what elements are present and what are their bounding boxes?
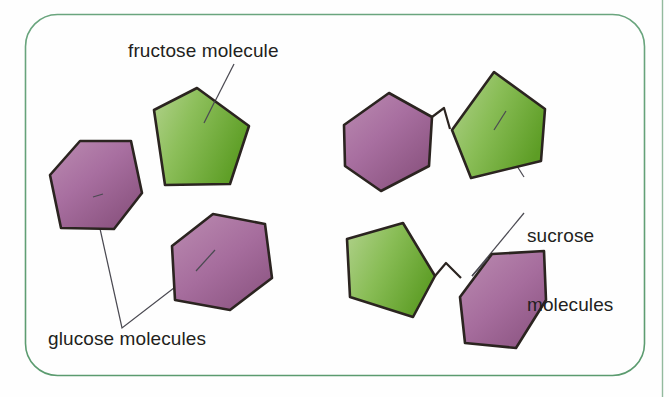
glucose-hexagon-right [172, 214, 272, 310]
glucose-label: glucose molecules [48, 328, 206, 350]
leader-lines [93, 64, 524, 328]
sucrose-label: sucrose molecules [527, 178, 613, 362]
leader-line-tips [93, 101, 506, 276]
sucrose-label-line-2: molecules [527, 293, 613, 316]
sucrose-top-glucose-hexagon [344, 93, 432, 191]
sucrose-molecule-top [344, 72, 545, 191]
fructose-pentagon [154, 88, 249, 185]
glycosidic-bond-top [432, 108, 450, 129]
sucrose-top-fructose-pentagon [452, 72, 545, 178]
glucose-hexagon-left [50, 141, 142, 229]
glycosidic-bond-bottom [435, 263, 461, 278]
figure-canvas: fructose molecule glucose molecules sucr… [0, 0, 669, 397]
sucrose-bottom-fructose-pentagon [347, 223, 435, 317]
fructose-label: fructose molecule [128, 40, 279, 62]
sucrose-molecule-bottom [347, 223, 546, 348]
sucrose-label-line-1: sucrose [527, 224, 613, 247]
